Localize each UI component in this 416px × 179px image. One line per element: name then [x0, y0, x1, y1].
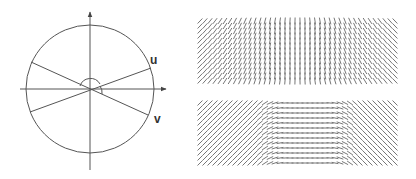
- label-v: v: [154, 112, 161, 126]
- label-u: u: [150, 53, 157, 67]
- orientation-field-bottom: [198, 101, 398, 166]
- angle-arc-v: [100, 86, 102, 94]
- left-diagram: [20, 12, 166, 170]
- figure-canvas: [0, 0, 416, 179]
- orientation-field-top: [198, 18, 398, 85]
